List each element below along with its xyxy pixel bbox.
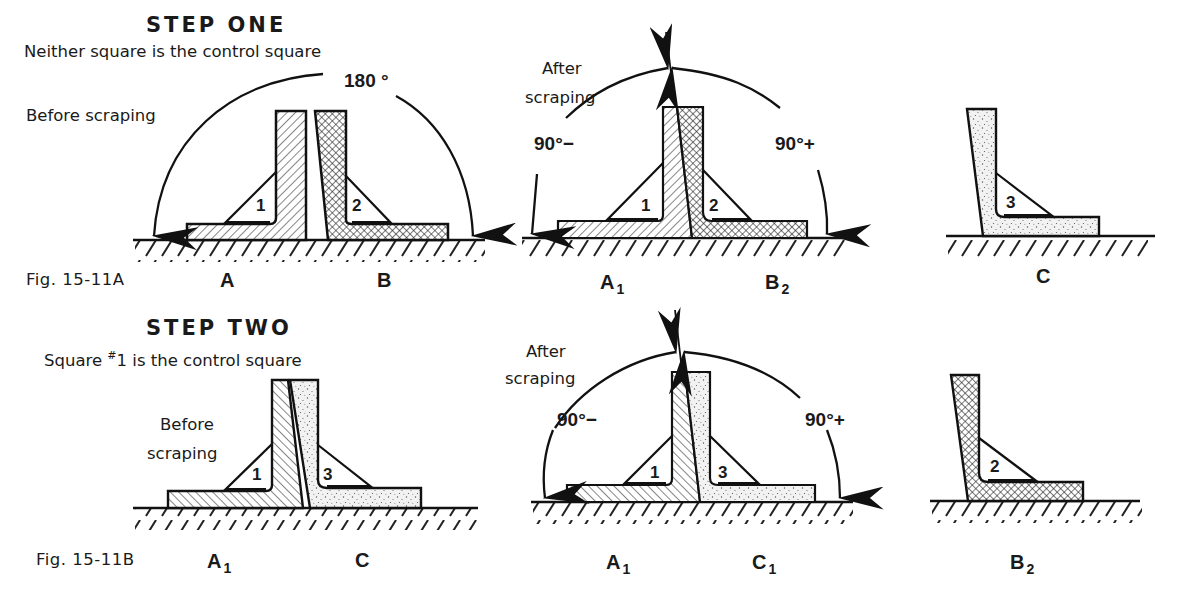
square-a bbox=[187, 111, 306, 240]
square-number-3: 3 bbox=[1006, 194, 1015, 211]
square-letter-b2: B2 bbox=[1010, 552, 1034, 572]
square-letter-a1: A1 bbox=[600, 272, 624, 292]
square-number-1: 1 bbox=[256, 197, 265, 214]
square-letter-a: A bbox=[220, 270, 234, 290]
square-number-2: 2 bbox=[709, 197, 718, 214]
after-scraping-label-line2: scraping bbox=[525, 90, 596, 107]
before-scraping-label-line2: scraping bbox=[147, 446, 218, 463]
step-one-subtitle: Neither square is the control square bbox=[24, 44, 321, 61]
square-letter-c: C bbox=[1036, 266, 1050, 286]
square-b2-alone bbox=[951, 375, 1083, 501]
before-scraping-label: Before scraping bbox=[26, 108, 156, 125]
angle-90-minus-label: 90°− bbox=[557, 410, 597, 429]
after-scraping-label-line2: scraping bbox=[505, 371, 576, 388]
figure-label-a: Fig. 15-11A bbox=[26, 272, 125, 289]
square-letter-b2: B2 bbox=[765, 272, 789, 292]
before-scraping-label-line1: Before bbox=[160, 417, 214, 434]
square-b bbox=[315, 111, 448, 240]
after-scraping-label-line1: After bbox=[526, 344, 566, 361]
angle-90-minus-label: 90°− bbox=[534, 134, 574, 153]
square-c bbox=[967, 109, 1099, 236]
square-letter-c1: C1 bbox=[752, 552, 776, 572]
square-number-1: 1 bbox=[650, 464, 659, 481]
square-letter-b: B bbox=[377, 270, 391, 290]
square-number-1: 1 bbox=[641, 197, 650, 214]
angle-90-plus-label: 90°+ bbox=[805, 410, 845, 429]
angle-180-label: 180 ° bbox=[344, 71, 389, 90]
step-one-title: STEP ONE bbox=[146, 15, 286, 36]
step-two-third-square bbox=[930, 375, 1142, 523]
angle-90-plus-label: 90°+ bbox=[775, 134, 815, 153]
after-scraping-label-line1: After bbox=[542, 61, 582, 78]
step-one-before-diagram bbox=[133, 74, 485, 262]
square-number-1: 1 bbox=[252, 466, 261, 483]
square-letter-a1: A1 bbox=[606, 552, 630, 572]
step-two-title: STEP TWO bbox=[146, 318, 292, 339]
square-letter-c: C bbox=[355, 550, 369, 570]
step-one-third-square bbox=[946, 109, 1155, 258]
square-letter-a1: A1 bbox=[207, 551, 231, 571]
square-number-2: 2 bbox=[990, 458, 999, 475]
square-number-3: 3 bbox=[718, 464, 727, 481]
step-two-subtitle: Square #1 is the control square bbox=[44, 350, 302, 369]
figure-label-b: Fig. 15-11B bbox=[36, 552, 135, 569]
square-c-before bbox=[290, 380, 421, 508]
square-number-3: 3 bbox=[323, 466, 332, 483]
square-number-2: 2 bbox=[352, 197, 361, 214]
